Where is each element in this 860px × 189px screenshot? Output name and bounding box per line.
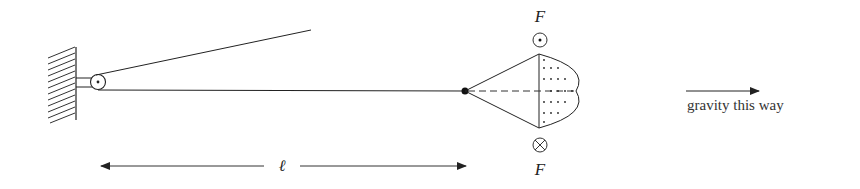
- force-top: F: [533, 7, 547, 47]
- sail-body: [465, 54, 579, 128]
- pivot-icon: [91, 75, 106, 90]
- force-bottom: F: [533, 138, 547, 179]
- wall-hatching: [48, 47, 75, 123]
- gravity-label: gravity this way: [687, 97, 784, 113]
- rod: [98, 90, 465, 91]
- force-top-label: F: [534, 7, 546, 26]
- wall: [48, 47, 76, 123]
- upper-string: [96, 30, 311, 75]
- length-label: ℓ: [279, 157, 286, 174]
- into-page-icon: [533, 138, 547, 152]
- out-of-page-icon: [533, 33, 547, 47]
- length-dimension: ℓ: [101, 157, 466, 174]
- gravity-indicator: gravity this way: [686, 91, 784, 113]
- physics-diagram: F F ℓ gravity this way: [0, 0, 860, 189]
- pivot-bracket: [76, 78, 92, 87]
- force-bottom-label: F: [534, 160, 546, 179]
